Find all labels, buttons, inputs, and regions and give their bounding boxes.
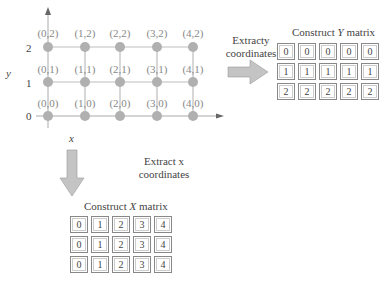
point-label: (3,0) (146, 97, 167, 109)
y-matrix-title: Construct Y matrix (292, 26, 375, 38)
matrix-cell: 4 (154, 256, 172, 273)
point-label: (4,0) (182, 97, 203, 109)
matrix-cell: 0 (298, 43, 316, 60)
matrix-cell: 4 (154, 236, 172, 253)
point-label: (1,2) (74, 27, 95, 39)
y-tick-0: 0 (26, 110, 32, 122)
y-axis-label: y (6, 67, 11, 79)
point-label: (3,1) (146, 63, 167, 75)
title-text: Construct (292, 26, 338, 38)
matrix-cell: 2 (112, 236, 130, 253)
matrix-cell: 0 (319, 43, 337, 60)
point-label: (0,2) (37, 27, 58, 39)
matrix-cell: 1 (298, 63, 316, 80)
caption-line: coordinates (222, 47, 280, 60)
point-label: (1,1) (74, 63, 95, 75)
matrix-cell: 2 (277, 83, 295, 100)
matrix-cell: 0 (277, 43, 295, 60)
point-label: (2,2) (109, 27, 130, 39)
point-label: (4,1) (182, 63, 203, 75)
matrix-cell: 1 (340, 63, 358, 80)
point-label: (0,0) (37, 97, 58, 109)
matrix-cell: 2 (361, 83, 379, 100)
matrix-cell: 1 (361, 63, 379, 80)
point-label: (0,1) (37, 63, 58, 75)
right-arrow-icon (228, 60, 268, 84)
matrix-cell: 0 (70, 256, 88, 273)
point-label: (2,1) (109, 63, 130, 75)
extract-x-caption: Extract x coordinates (134, 155, 194, 181)
matrix-cell: 1 (277, 63, 295, 80)
caption-line: Extract x (134, 155, 194, 168)
matrix-cell: 1 (91, 256, 109, 273)
y-axis-arrowhead (45, 7, 51, 15)
matrix-cell: 4 (154, 216, 172, 233)
point-label: (1,0) (74, 97, 95, 109)
caption-line: coordinates (134, 168, 194, 181)
matrix-cell: 2 (112, 216, 130, 233)
matrix-cell: 0 (70, 236, 88, 253)
matrix-cell: 0 (361, 43, 379, 60)
y-matrix: 0 0 0 0 0 1 1 1 1 1 2 2 2 2 2 (277, 43, 379, 100)
matrix-cell: 3 (133, 256, 151, 273)
y-tick-2: 2 (26, 42, 32, 54)
extract-y-caption: Extracty coordinates (222, 34, 280, 60)
matrix-cell: 2 (112, 256, 130, 273)
matrix-cell: 0 (340, 43, 358, 60)
matrix-cell: 2 (298, 83, 316, 100)
y-tick-1: 1 (26, 77, 32, 89)
point-label: (4,2) (182, 27, 203, 39)
matrix-cell: 1 (91, 236, 109, 253)
matrix-cell: 3 (133, 236, 151, 253)
matrix-cell: 1 (319, 63, 337, 80)
x-axis-arrowhead (216, 114, 224, 119)
matrix-cell: 3 (133, 216, 151, 233)
matrix-cell: 1 (91, 216, 109, 233)
x-axis-label: x (69, 132, 74, 144)
caption-line: Extracty (222, 34, 280, 47)
down-arrow-icon (60, 150, 84, 196)
matrix-cell: 0 (70, 216, 88, 233)
matrix-cell: 2 (340, 83, 358, 100)
x-matrix-title: Construct X matrix (84, 200, 168, 212)
point-label: (3,2) (146, 27, 167, 39)
title-text: matrix (344, 26, 375, 38)
title-text: Construct (84, 200, 130, 212)
title-text: matrix (136, 200, 167, 212)
x-matrix: 0 1 2 3 4 0 1 2 3 4 0 1 2 3 4 (70, 216, 172, 273)
point-label: (2,0) (109, 97, 130, 109)
matrix-cell: 2 (319, 83, 337, 100)
